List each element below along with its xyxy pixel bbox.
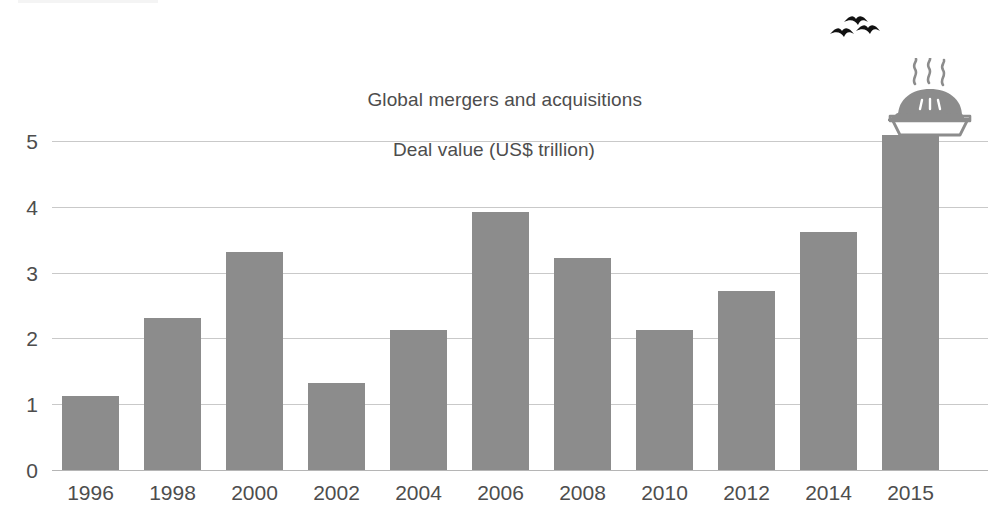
- x-axis-label-2010: 2010: [624, 481, 706, 505]
- bar-2012: [718, 291, 775, 470]
- bar-1998: [144, 318, 201, 470]
- birds-icon: [826, 8, 888, 53]
- x-axis-label-2008: 2008: [542, 481, 624, 505]
- bar-1996: [62, 396, 119, 470]
- x-axis-label-2002: 2002: [296, 481, 378, 505]
- chart-canvas: Global mergers and acquisitions Deal val…: [0, 0, 988, 531]
- bar-2004: [390, 330, 447, 470]
- y-axis-label-4: 4: [26, 196, 38, 217]
- bar-2006: [472, 212, 529, 470]
- x-axis-label-1998: 1998: [132, 481, 214, 505]
- scan-artifact: [18, 0, 158, 3]
- y-axis-label-1: 1: [26, 394, 38, 415]
- x-axis-label-2000: 2000: [214, 481, 296, 505]
- chart-title: Global mergers and acquisitions: [367, 89, 642, 110]
- x-axis-label-2012: 2012: [706, 481, 788, 505]
- pie-icon: [888, 58, 972, 138]
- bar-2008: [554, 258, 611, 470]
- bar-2015: [882, 135, 939, 470]
- bar-2000: [226, 252, 283, 470]
- y-axis-label-3: 3: [26, 262, 38, 283]
- x-axis-label-2004: 2004: [378, 481, 460, 505]
- x-axis-label-2006: 2006: [460, 481, 542, 505]
- x-axis-label-1996: 1996: [50, 481, 132, 505]
- y-axis-label-2: 2: [26, 328, 38, 349]
- gridline-4: [52, 207, 988, 208]
- bar-2014: [800, 232, 857, 470]
- y-axis-label-5: 5: [26, 131, 38, 152]
- x-axis-label-2015: 2015: [870, 481, 952, 505]
- x-axis-label-2014: 2014: [788, 481, 870, 505]
- plot-area: 012345 199619982000200220042006200820102…: [52, 141, 988, 470]
- x-axis-line: [52, 470, 988, 471]
- y-axis-label-0: 0: [26, 460, 38, 481]
- bar-2002: [308, 383, 365, 471]
- bar-2010: [636, 330, 693, 470]
- gridline-5: [52, 141, 988, 142]
